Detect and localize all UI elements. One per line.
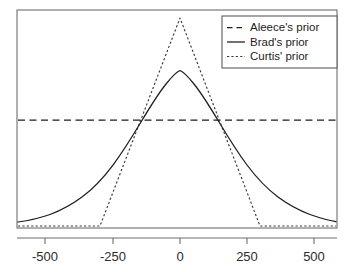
x-tick-label-250: 250	[236, 249, 258, 264]
chart-legend: Aleece's prior Brad's prior Curtis' prio…	[222, 16, 337, 68]
x-tick-label-500: 500	[303, 249, 325, 264]
chart-figure: -500 -250 0 250 500 Aleece's prior Brad'…	[0, 0, 360, 272]
legend-label-brads-prior: Brad's prior	[250, 36, 309, 48]
x-tick-label-minus250: -250	[100, 249, 126, 264]
x-tick-label-minus500: -500	[32, 249, 58, 264]
legend-label-aleeces-prior: Aleece's prior	[250, 21, 319, 33]
series-line-brads-prior	[18, 71, 336, 223]
legend-label-curtis-prior: Curtis' prior	[250, 50, 309, 62]
prior-distributions-chart: -500 -250 0 250 500 Aleece's prior Brad'…	[0, 0, 360, 272]
x-tick-label-zero: 0	[176, 249, 183, 264]
